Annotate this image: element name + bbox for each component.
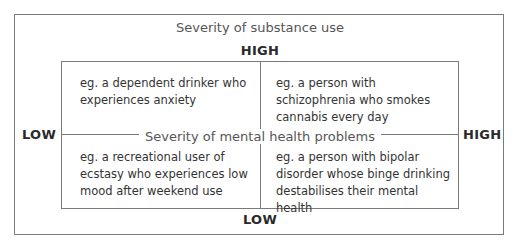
vertical-axis-title: Severity of substance use [0,20,520,35]
vertical-axis-high-label: HIGH [0,43,520,58]
horizontal-axis-title-wrap: Severity of mental health problems [0,126,520,145]
quadrant-top-left: eg. a dependent drinker who experiences … [80,75,255,109]
horizontal-axis-title: Severity of mental health problems [139,129,381,144]
quadrant-bottom-right: eg. a person with bipolar disorder whose… [276,149,456,217]
quadrant-bottom-left: eg. a recreational user of ecstasy who e… [80,149,255,200]
quadrant-top-right: eg. a person with schizophrenia who smok… [276,75,456,126]
